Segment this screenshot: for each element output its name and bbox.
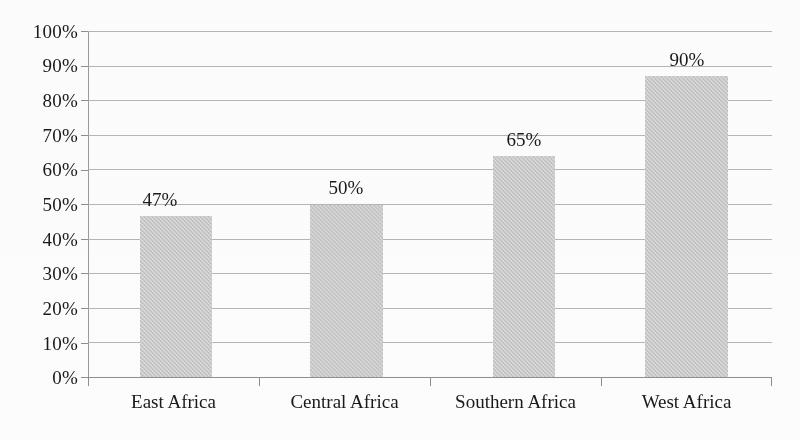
y-tick-label-70: 70% (4, 126, 78, 145)
bar-label-southern-africa: 65% (474, 130, 574, 149)
category-label-east-africa: East Africa (88, 391, 259, 413)
y-tick-label-100: 100% (4, 22, 78, 41)
bar-label-east-africa: 47% (110, 190, 210, 209)
chart-figure: 100% 90% 80% 70% 60% 50% 40% 30% 20% 10%… (0, 0, 800, 440)
y-tick-label-40: 40% (4, 230, 78, 249)
gridline-100 (88, 31, 772, 32)
x-tick-mark-4 (771, 377, 772, 386)
x-tick-mark-0 (88, 377, 89, 386)
y-tick-label-30: 30% (4, 264, 78, 283)
category-label-west-africa: West Africa (601, 391, 772, 413)
bar-central-africa[interactable] (310, 205, 383, 377)
y-tick-label-0: 0% (4, 368, 78, 387)
category-label-southern-africa: Southern Africa (430, 391, 601, 413)
bar-east-africa[interactable] (140, 216, 212, 377)
category-label-central-africa: Central Africa (259, 391, 430, 413)
y-tick-label-10: 10% (4, 334, 78, 353)
y-tick-label-90: 90% (4, 56, 78, 75)
y-tick-label-80: 80% (4, 91, 78, 110)
y-axis-tick-labels: 100% 90% 80% 70% 60% 50% 40% 30% 20% 10%… (0, 0, 78, 440)
bar-southern-africa[interactable] (493, 156, 555, 377)
x-tick-mark-2 (430, 377, 431, 386)
bar-label-central-africa: 50% (296, 178, 396, 197)
bar-label-west-africa: 90% (637, 50, 737, 69)
bar-west-africa[interactable] (645, 76, 728, 377)
x-tick-mark-3 (601, 377, 602, 386)
y-tick-label-60: 60% (4, 160, 78, 179)
y-tick-label-50: 50% (4, 195, 78, 214)
y-tick-label-20: 20% (4, 299, 78, 318)
x-tick-mark-1 (259, 377, 260, 386)
